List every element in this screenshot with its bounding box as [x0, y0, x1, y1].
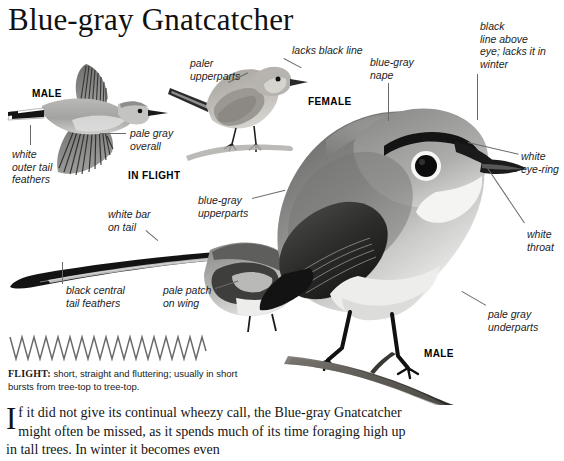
leader-line-pale-gray-overall — [100, 133, 126, 134]
annotation-white-outer-tail-feathers: white outer tail feathers — [12, 148, 52, 186]
leader-line-white-outer-tail-feathers — [30, 125, 31, 145]
label-male-main: MALE — [424, 348, 454, 359]
annotation-white-eye-ring: white eye-ring — [521, 150, 559, 175]
page-title: Blue-gray Gnatcatcher — [8, 2, 294, 38]
annotation-pale-patch-on-wing: pale patch on wing — [163, 284, 211, 309]
annotation-black-central-tail-feathers: black central tail feathers — [66, 284, 125, 309]
flight-description: FLIGHT: short, straight and fluttering; … — [8, 367, 258, 393]
annotation-white-bar-on-tail: white bar on tail — [108, 208, 151, 233]
annotation-pale-gray-overall: pale gray overall — [130, 127, 173, 152]
annotation-pale-gray-underparts: pale gray underparts — [488, 308, 538, 333]
annotation-blue-gray-upperparts: blue-gray upperparts — [198, 194, 248, 219]
annotation-black-line-above-eye: black line above eye; lacks it in winter — [480, 20, 546, 70]
field-guide-page: Blue-gray Gnatcatcher — [0, 0, 564, 461]
body-paragraph: If it did not give its continual wheezy … — [6, 404, 410, 460]
illustration-male-main — [258, 60, 538, 405]
leader-line-blue-gray-nape — [388, 83, 389, 121]
flight-pattern-zigzag — [8, 334, 208, 366]
drop-cap: I — [6, 405, 18, 432]
label-male-in-flight: MALE — [32, 88, 62, 99]
annotation-blue-gray-nape: blue-gray nape — [370, 56, 414, 81]
leader-line-black-central-tail-feathers — [62, 262, 63, 284]
flight-heading: FLIGHT: — [8, 368, 51, 379]
annotation-lacks-black-line: lacks black line — [292, 44, 363, 57]
annotation-white-throat: white throat — [527, 228, 554, 253]
label-in-flight: IN FLIGHT — [128, 170, 180, 181]
leader-line-black-line-above-eye — [477, 74, 478, 120]
body-paragraph-text: f it did not give its continual wheezy c… — [6, 405, 406, 457]
